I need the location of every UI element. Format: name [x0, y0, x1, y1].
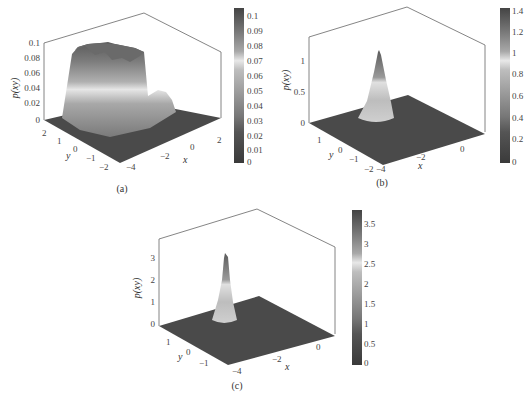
z-tick: 0.04: [24, 83, 40, 93]
colorbar-tick: 0.2: [512, 134, 523, 144]
colorbar-tick: 0: [364, 358, 369, 368]
colorbar-tick: 1.5: [364, 299, 376, 309]
figure: 0.1 0.08 0.06 0.04 0.02 0 p(xy) 2 1 0 −1…: [0, 0, 530, 396]
y-tick: 0: [73, 144, 78, 154]
colorbar-tick: 0.5: [364, 339, 376, 349]
z-tick: 0.02: [24, 98, 40, 108]
z-tick: 2: [151, 275, 156, 285]
colorbar-tick: 1: [512, 48, 517, 58]
y-tick: 0: [338, 145, 343, 155]
z-axis-label: p(xy): [280, 69, 292, 91]
z-tick: 0.08: [24, 53, 40, 63]
colorbar: [500, 8, 510, 163]
colorbar-tick: 0.02: [247, 131, 263, 141]
x-tick: 0: [190, 142, 195, 152]
floor-surface: [309, 95, 485, 165]
y-axis-label: y: [328, 149, 334, 160]
x-axis-label: x: [284, 361, 290, 372]
z-tick: 0.5: [294, 87, 306, 97]
colorbar-tick: 0: [512, 157, 517, 167]
x-tick: −2: [272, 354, 282, 364]
panel-c: 3 2 1 0 p(xy) 1 0 −1 y −4 −2 0 x 3.5 3 2…: [131, 209, 376, 392]
colorbar-tick: 1.2: [512, 27, 523, 37]
x-tick: 2: [217, 135, 222, 145]
colorbar: [352, 210, 362, 365]
y-tick: −1: [199, 358, 209, 368]
colorbar-tick: 0.4: [512, 113, 524, 123]
colorbar: [234, 8, 244, 163]
colorbar-tick: 0.04: [247, 101, 263, 111]
x-tick: −4: [232, 366, 242, 376]
z-tick: 0: [151, 319, 156, 329]
panel-caption: (b): [376, 177, 388, 189]
x-tick: 0: [460, 144, 465, 154]
y-tick: 2: [42, 128, 47, 138]
colorbar-tick: 2.5: [364, 259, 376, 269]
colorbar-tick: 0.06: [247, 71, 263, 81]
colorbar-tick: 0.03: [247, 116, 263, 126]
colorbar-tick: 0.09: [247, 26, 263, 36]
y-tick: 0: [186, 347, 191, 357]
y-tick: 1: [166, 337, 171, 347]
colorbar-tick: 3: [364, 239, 369, 249]
colorbar-tick: 0.08: [247, 41, 263, 51]
x-tick: −4: [376, 164, 386, 174]
y-tick: −1: [86, 153, 96, 163]
z-axis-label: p(xy): [9, 77, 21, 99]
colorbar-tick: 0.6: [512, 91, 524, 101]
colorbar-tick: 1: [364, 319, 369, 329]
colorbar-tick: 0: [247, 157, 252, 167]
colorbar-tick: 2: [364, 279, 369, 289]
colorbar-tick: 0.07: [247, 56, 263, 66]
x-axis-label: x: [182, 154, 188, 165]
z-tick: 1: [151, 297, 156, 307]
x-tick: −4: [126, 162, 136, 172]
x-tick: −2: [160, 151, 170, 161]
colorbar-tick: 0.05: [247, 86, 263, 96]
panel-caption: (c): [231, 380, 242, 392]
z-axis-label: p(xy): [131, 277, 143, 299]
panel-caption: (a): [116, 183, 127, 195]
peak-surface: [358, 50, 394, 122]
y-tick: −1: [349, 154, 359, 164]
x-tick: 0: [316, 342, 321, 352]
colorbar-tick: 0.01: [247, 145, 263, 155]
panel-b: 1 0.5 0 p(xy) 1 0 −1 −2 y −4 −2 0 x 1.4 …: [280, 6, 524, 189]
z-tick: 3: [151, 253, 156, 263]
y-tick: −2: [364, 164, 374, 174]
x-axis-label: x: [417, 160, 423, 171]
y-tick: 1: [57, 136, 62, 146]
panel-a: 0.1 0.08 0.06 0.04 0.02 0 p(xy) 2 1 0 −1…: [9, 8, 263, 195]
z-tick: 1: [301, 56, 306, 66]
colorbar-tick: 1.4: [512, 6, 524, 16]
y-tick: 1: [317, 135, 322, 145]
peak-surface: [212, 253, 237, 323]
colorbar-tick: 0.1: [247, 11, 258, 21]
y-axis-label: y: [177, 351, 183, 362]
colorbar-tick: 0.8: [512, 69, 524, 79]
z-tick: 0.1: [29, 38, 40, 48]
colorbar-tick: 3.5: [364, 219, 376, 229]
z-tick: 0.06: [24, 68, 40, 78]
z-tick: 0: [301, 118, 306, 128]
y-tick: −2: [99, 162, 109, 172]
y-axis-label: y: [65, 150, 71, 161]
z-tick: 0: [36, 115, 41, 125]
